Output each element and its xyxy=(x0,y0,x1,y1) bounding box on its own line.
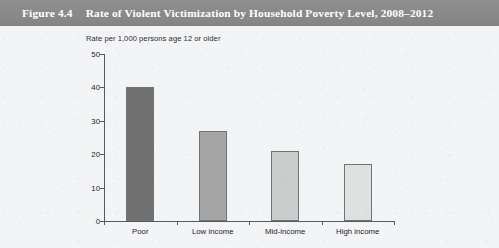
figure-header-text: Figure 4.4 Rate of Violent Victimization… xyxy=(22,0,433,26)
bar-slot xyxy=(104,54,177,221)
figure-number: Figure 4.4 xyxy=(22,7,73,19)
x-tick-label: Low income xyxy=(192,227,234,236)
chart-plot-area: Rate per 1,000 persons age 12 or older 0… xyxy=(0,26,499,248)
bar-slot xyxy=(322,54,395,221)
y-axis-label: Rate per 1,000 persons age 12 or older xyxy=(86,34,220,43)
y-tick-label: 10 xyxy=(91,183,100,192)
x-tick-mark xyxy=(249,221,250,225)
y-axis-ticks: 01020304050 xyxy=(78,26,100,248)
y-tick-label: 30 xyxy=(91,116,100,125)
x-tick-mark xyxy=(104,221,105,225)
x-tick-mark xyxy=(177,221,178,225)
y-tick-label: 20 xyxy=(91,150,100,159)
bar-slot xyxy=(249,54,322,221)
bar-slot xyxy=(177,54,250,221)
x-tick-label: High income xyxy=(336,227,379,236)
figure-header-band: Figure 4.4 Rate of Violent Victimization… xyxy=(0,0,499,26)
bar xyxy=(271,151,299,221)
bar xyxy=(199,131,227,221)
x-tick-label: Mid-income xyxy=(265,227,305,236)
figure-title: Rate of Violent Victimization by Househo… xyxy=(86,7,434,19)
bar-series xyxy=(104,54,394,221)
y-tick-label: 40 xyxy=(91,83,100,92)
x-tick-mark xyxy=(394,221,395,225)
x-tick-label: Poor xyxy=(132,227,148,236)
bar xyxy=(126,87,154,221)
figure-container: Figure 4.4 Rate of Violent Victimization… xyxy=(0,0,499,248)
x-tick-mark xyxy=(322,221,323,225)
bar xyxy=(344,164,372,221)
y-tick-label: 50 xyxy=(91,50,100,59)
